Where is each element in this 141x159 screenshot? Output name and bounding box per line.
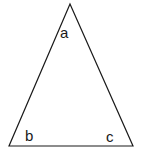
angle-label-c: c [106, 128, 114, 145]
triangle-diagram: a b c [0, 0, 141, 159]
triangle-svg: a b c [0, 0, 141, 159]
angle-label-a: a [60, 24, 69, 41]
angle-label-b: b [25, 127, 33, 144]
triangle-shape [9, 4, 133, 146]
